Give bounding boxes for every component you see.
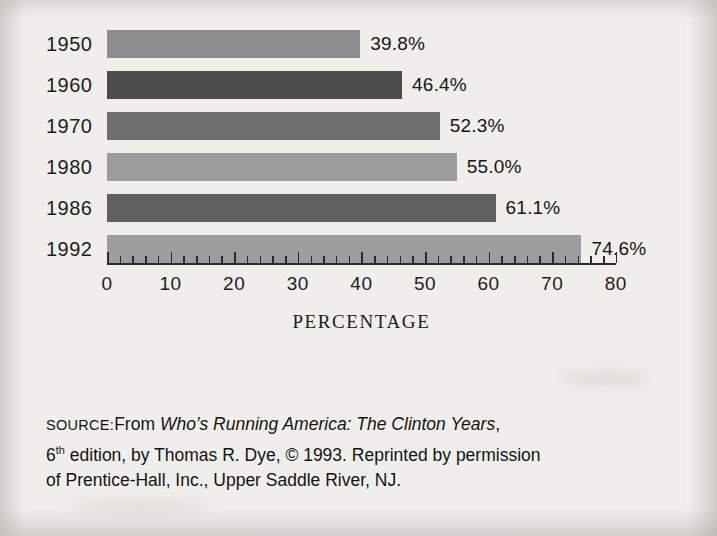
bar-value-1950: 39.8% xyxy=(370,30,425,58)
axis-tick-minor xyxy=(145,256,147,263)
axis-tick-label: 70 xyxy=(541,273,563,295)
source-text-a: From xyxy=(114,414,160,434)
axis-tick-minor xyxy=(412,256,414,263)
axis-tick-label: 80 xyxy=(605,273,627,295)
axis-tick-minor xyxy=(285,256,287,263)
axis-tick-major xyxy=(425,252,427,263)
axis-tick-major xyxy=(361,252,363,263)
bar-value-1992: 74.6% xyxy=(591,235,646,263)
table-row: 1980 55.0% xyxy=(24,149,686,185)
x-axis-line xyxy=(107,263,616,265)
bar-track-1992: 74.6% xyxy=(107,231,686,267)
category-label-1986: 1986 xyxy=(24,190,102,226)
axis-tick-major xyxy=(171,252,173,263)
category-label-1980: 1980 xyxy=(24,149,102,185)
axis-tick-label: 40 xyxy=(350,273,372,295)
bar-track-1986: 61.1% xyxy=(107,190,686,226)
category-label-1970: 1970 xyxy=(24,108,102,144)
axis-tick-label: 30 xyxy=(287,273,309,295)
table-row: 1992 74.6% xyxy=(24,231,686,267)
bar-1992 xyxy=(107,235,581,263)
axis-tick-minor xyxy=(221,256,223,263)
axis-tick-minor xyxy=(196,256,198,263)
axis-tick-minor xyxy=(349,256,351,263)
category-label-1960: 1960 xyxy=(24,67,102,103)
axis-tick-minor xyxy=(158,256,160,263)
axis-tick-minor xyxy=(463,256,465,263)
bar-track-1950: 39.8% xyxy=(107,26,686,62)
source-text-c: edition, by Thomas R. Dye, © 1993. Repri… xyxy=(65,445,541,465)
source-edition-suffix: th xyxy=(56,444,65,456)
category-label-1950: 1950 xyxy=(24,26,102,62)
bar-track-1980: 55.0% xyxy=(107,149,686,185)
axis-tick-minor xyxy=(476,256,478,263)
axis-tick-minor xyxy=(590,256,592,263)
bar-1960 xyxy=(107,71,402,99)
axis-tick-major xyxy=(616,252,618,263)
axis-tick-label: 20 xyxy=(223,273,245,295)
axis-tick-minor xyxy=(120,256,122,263)
axis-tick-minor xyxy=(578,256,580,263)
table-row: 1960 46.4% xyxy=(24,67,686,103)
axis-tick-minor xyxy=(247,256,249,263)
axis-tick-minor xyxy=(527,256,529,263)
axis-tick-major xyxy=(107,252,109,263)
axis-tick-major xyxy=(552,252,554,263)
source-text-b: , xyxy=(495,414,500,434)
bar-value-1970: 52.3% xyxy=(450,112,505,140)
axis-tick-minor xyxy=(603,256,605,263)
axis-tick-major xyxy=(489,252,491,263)
bar-chart-figure: 1950 39.8% 1960 46.4% 1970 52.3% xyxy=(24,18,686,518)
axis-tick-label: 10 xyxy=(160,273,182,295)
bar-value-1980: 55.0% xyxy=(467,153,522,181)
axis-tick-major xyxy=(234,252,236,263)
axis-tick-minor xyxy=(336,256,338,263)
axis-tick-label: 50 xyxy=(414,273,436,295)
figure-page: 1950 39.8% 1960 46.4% 1970 52.3% xyxy=(0,0,717,536)
axis-tick-minor xyxy=(539,256,541,263)
axis-tick-minor xyxy=(450,256,452,263)
axis-tick-label: 0 xyxy=(101,273,112,295)
bar-track-1970: 52.3% xyxy=(107,108,686,144)
axis-tick-minor xyxy=(374,256,376,263)
bar-value-1986: 61.1% xyxy=(506,194,561,222)
axis-tick-minor xyxy=(209,256,211,263)
bar-1980 xyxy=(107,153,457,181)
source-note: SOURCE:From Who’s Running America: The C… xyxy=(46,412,666,493)
axis-tick-minor xyxy=(183,256,185,263)
table-row: 1950 39.8% xyxy=(24,26,686,62)
axis-tick-minor xyxy=(132,256,134,263)
axis-tick-minor xyxy=(311,256,313,263)
chart-plot-area: 1950 39.8% 1960 46.4% 1970 52.3% xyxy=(24,18,686,388)
axis-tick-minor xyxy=(514,256,516,263)
axis-tick-major xyxy=(298,252,300,263)
axis-tick-minor xyxy=(260,256,262,263)
axis-tick-minor xyxy=(387,256,389,263)
source-edition-number: 6 xyxy=(46,445,56,465)
category-label-1992: 1992 xyxy=(24,231,102,267)
axis-tick-label: 60 xyxy=(478,273,500,295)
bar-1950 xyxy=(107,30,360,58)
axis-tick-minor xyxy=(565,256,567,263)
source-text-d: of Prentice-Hall, Inc., Upper Saddle Riv… xyxy=(46,470,401,490)
bar-track-1960: 46.4% xyxy=(107,67,686,103)
bar-1970 xyxy=(107,112,440,140)
axis-tick-minor xyxy=(323,256,325,263)
table-row: 1986 61.1% xyxy=(24,190,686,226)
axis-tick-minor xyxy=(501,256,503,263)
bar-value-1960: 46.4% xyxy=(412,71,467,99)
table-row: 1970 52.3% xyxy=(24,108,686,144)
axis-tick-minor xyxy=(438,256,440,263)
x-axis: 01020304050607080 PERCENTAGE xyxy=(107,263,616,333)
bar-1986 xyxy=(107,194,496,222)
source-title-italic: Who’s Running America: The Clinton Years xyxy=(160,414,495,434)
x-axis-title: PERCENTAGE xyxy=(107,311,616,333)
axis-tick-minor xyxy=(400,256,402,263)
source-label: SOURCE: xyxy=(46,417,114,433)
axis-tick-minor xyxy=(272,256,274,263)
